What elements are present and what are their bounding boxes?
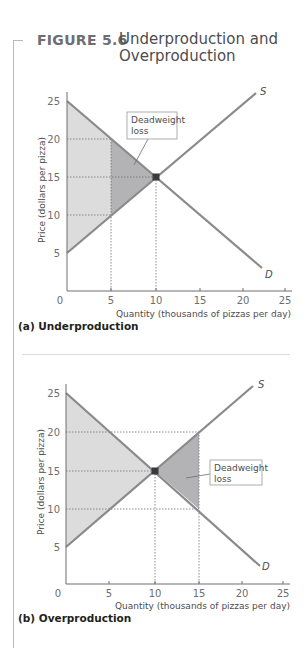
chart-underproduction: 25 20 15 10 5 0 5 10 15 20 25 Quantity (… xyxy=(0,0,308,320)
annotation-leader xyxy=(134,139,148,165)
equilibrium-point xyxy=(153,174,160,181)
annotation-text-1: Deadweight xyxy=(214,463,269,473)
supply-label: S xyxy=(258,379,265,390)
x-axis-label: Quantity (thousands of pizzas per day) xyxy=(115,601,290,611)
y-tick-20: 20 xyxy=(47,427,60,438)
y-tick-10: 10 xyxy=(47,504,60,515)
y-tick-15: 15 xyxy=(47,466,60,477)
x-tick-15: 15 xyxy=(193,588,206,599)
y-axis-label: Price (dollars per pizza) xyxy=(36,429,46,535)
annotation-text-2: loss xyxy=(214,474,232,484)
x-tick-25: 25 xyxy=(277,588,290,599)
panel-b-label: (b) Overproduction xyxy=(18,612,131,624)
supply-label: S xyxy=(260,86,267,97)
y-tick-5: 5 xyxy=(54,248,60,259)
y-tick-25: 25 xyxy=(47,388,60,399)
x-tick-10: 10 xyxy=(149,588,162,599)
x-tick-5: 5 xyxy=(106,588,112,599)
x-tick-0: 0 xyxy=(55,588,61,599)
demand-label: D xyxy=(265,269,273,280)
y-tick-15: 15 xyxy=(47,172,60,183)
deadweight-loss-area xyxy=(155,432,199,509)
x-tick-20: 20 xyxy=(236,588,249,599)
y-tick-10: 10 xyxy=(47,210,60,221)
annotation-text-1: Deadweight xyxy=(131,115,186,125)
annotation-text-2: loss xyxy=(131,126,149,136)
demand-label: D xyxy=(262,561,270,572)
chart-overproduction: 25 20 15 10 5 0 5 10 15 20 25 Quantity (… xyxy=(0,292,308,612)
y-tick-25: 25 xyxy=(47,96,60,107)
y-tick-5: 5 xyxy=(54,542,60,553)
y-tick-20: 20 xyxy=(47,134,60,145)
equilibrium-point xyxy=(152,468,159,475)
y-axis-label: Price (dollars per pizza) xyxy=(37,137,47,243)
surplus-area xyxy=(66,393,155,547)
